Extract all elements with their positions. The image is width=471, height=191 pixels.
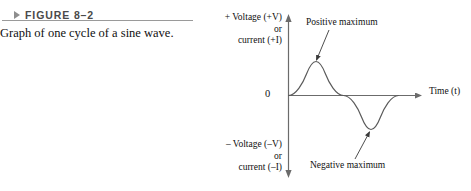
negative-maximum-leader	[355, 132, 370, 159]
y-axis-negative-line1: – Voltage (–V)	[196, 139, 282, 151]
x-axis-label: Time (t)	[429, 86, 460, 96]
y-axis-positive-label: + Voltage (+V) or current (+I)	[196, 12, 282, 47]
y-axis-positive-line1: + Voltage (+V)	[196, 12, 282, 24]
y-axis-arrow-up	[285, 14, 291, 22]
y-axis-negative-label: – Voltage (–V) or current (–I)	[196, 139, 282, 174]
positive-maximum-leader	[317, 30, 330, 60]
positive-maximum-annotation: Positive maximum	[306, 17, 378, 27]
figure-page: FIGURE 8–2 Graph of one cycle of a sine …	[0, 0, 471, 191]
y-axis-positive-line2: or	[196, 24, 282, 36]
y-axis-negative-line2: or	[196, 151, 282, 163]
negative-maximum-annotation: Negative maximum	[310, 160, 385, 170]
origin-label: 0	[265, 88, 270, 99]
y-axis-positive-line3: current (+I)	[196, 35, 282, 47]
y-axis-arrow-down	[285, 170, 291, 178]
y-axis-negative-line3: current (–I)	[196, 162, 282, 174]
